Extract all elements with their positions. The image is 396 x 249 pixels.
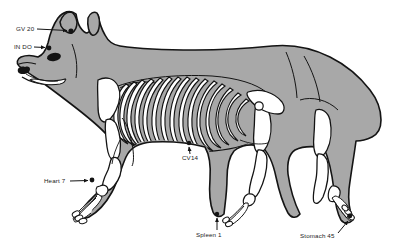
label-gv20: GV 20 bbox=[16, 26, 34, 32]
label-spleen1: Spleen 1 bbox=[196, 232, 222, 238]
leader-cv14 bbox=[189, 147, 190, 154]
tibia-near bbox=[249, 150, 267, 199]
dog-anatomy-illustration bbox=[0, 0, 396, 249]
acupuncture-figure: GV 20 IN DO CV14 Heart 7 Spleen 1 Stomac… bbox=[0, 0, 396, 249]
label-indo: IN DO bbox=[14, 44, 32, 50]
acupoint-heart7 bbox=[90, 178, 95, 183]
leader-indo bbox=[34, 47, 45, 48]
acupoint-indo bbox=[47, 46, 52, 51]
label-stomach45: Stomach 45 bbox=[300, 233, 335, 239]
label-cv14: CV14 bbox=[182, 155, 198, 161]
leader-heart7 bbox=[70, 181, 88, 182]
acupoint-gv20 bbox=[68, 28, 73, 33]
acupoint-spleen1 bbox=[215, 212, 219, 216]
hip-joint bbox=[255, 102, 263, 110]
label-heart7: Heart 7 bbox=[44, 178, 65, 184]
acupoint-stomach45 bbox=[348, 214, 352, 218]
tibia-far bbox=[313, 154, 328, 204]
acupoint-cv14 bbox=[187, 141, 191, 145]
